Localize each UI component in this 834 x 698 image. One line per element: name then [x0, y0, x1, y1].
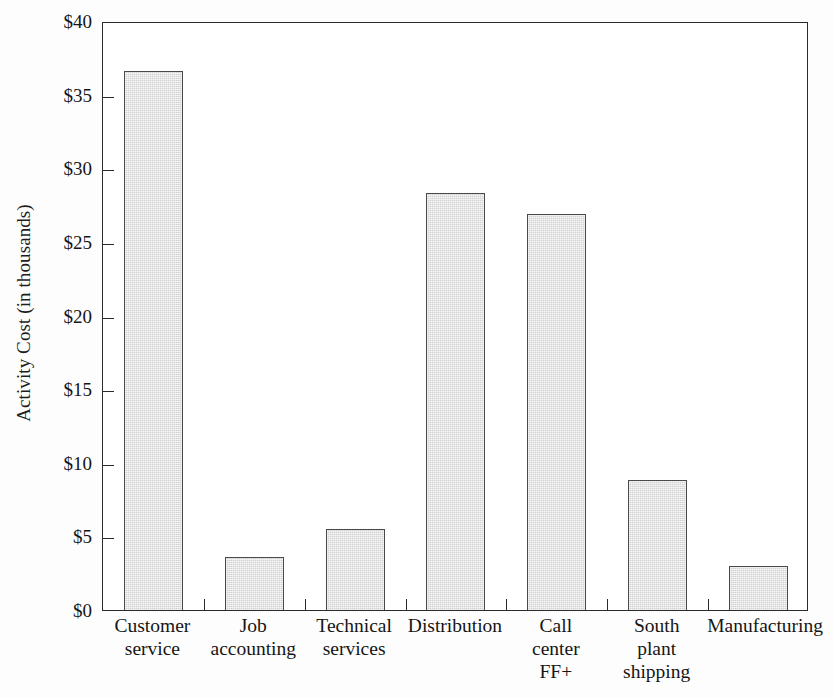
y-axis-tick-label: $25 [64, 232, 93, 254]
plot-area [102, 22, 808, 611]
y-axis-tick-mark [103, 538, 114, 539]
x-axis-tick-mark [708, 599, 709, 610]
y-axis-tick-label: $40 [64, 11, 93, 33]
y-axis-tick-label: $10 [64, 453, 93, 475]
x-axis-category-label-line: service [102, 637, 203, 660]
bar[interactable] [628, 480, 687, 610]
x-axis-category-label-line: South [606, 614, 707, 637]
bar[interactable] [225, 557, 284, 610]
x-axis-category-label-line: Distribution [405, 614, 506, 637]
x-axis-category-label-line: plant [606, 637, 707, 660]
bar-chart: Activity Cost (in thousands) $0$5$10$15$… [0, 0, 834, 698]
y-axis-tick-label: $30 [64, 158, 93, 180]
bar[interactable] [729, 566, 788, 610]
x-axis-category-label: Jobaccounting [203, 614, 304, 660]
x-axis-category-label-line: services [304, 637, 405, 660]
x-axis-tick-mark [204, 599, 205, 610]
x-axis-tick-mark [305, 599, 306, 610]
x-axis-category-label-line: center [505, 637, 606, 660]
x-axis-category-label: Technicalservices [304, 614, 405, 660]
x-axis-category-label: Customerservice [102, 614, 203, 660]
x-axis-category-label-line: Manufacturing [707, 614, 808, 637]
bar[interactable] [527, 214, 586, 610]
y-axis-tick-mark [103, 465, 114, 466]
x-axis-category-label-line: FF+ [505, 660, 606, 683]
x-axis-category-labels: CustomerserviceJobaccountingTechnicalser… [102, 614, 808, 698]
y-axis-title: Activity Cost (in thousands) [0, 0, 48, 625]
x-axis-category-label-line: Technical [304, 614, 405, 637]
y-axis-tick-mark [103, 97, 114, 98]
y-axis-tick-label: $0 [73, 600, 92, 622]
y-axis-tick-mark [103, 170, 114, 171]
y-axis-tick-label: $15 [64, 379, 93, 401]
x-axis-tick-mark [506, 599, 507, 610]
x-axis-tick-mark [607, 599, 608, 610]
bar[interactable] [124, 71, 183, 610]
y-axis-tick-label: $20 [64, 306, 93, 328]
x-axis-tick-mark [406, 599, 407, 610]
y-axis-tick-label: $35 [64, 85, 93, 107]
y-axis-title-text: Activity Cost (in thousands) [13, 204, 35, 422]
bar[interactable] [326, 529, 385, 610]
bar[interactable] [426, 193, 485, 610]
y-axis-tick-mark [103, 244, 114, 245]
x-axis-category-label-line: Call [505, 614, 606, 637]
x-axis-category-label: CallcenterFF+ [505, 614, 606, 683]
x-axis-category-label: Distribution [405, 614, 506, 637]
y-axis-tick-label: $5 [73, 526, 92, 548]
x-axis-category-label-line: Customer [102, 614, 203, 637]
x-axis-category-label-line: accounting [203, 637, 304, 660]
x-axis-category-label-line: shipping [606, 660, 707, 683]
x-axis-category-label-line: Job [203, 614, 304, 637]
y-axis-tick-labels: $0$5$10$15$20$25$30$35$40 [48, 0, 98, 625]
x-axis-category-label: Manufacturing [707, 614, 808, 637]
y-axis-tick-mark [103, 391, 114, 392]
y-axis-tick-mark [103, 318, 114, 319]
x-axis-category-label: Southplantshipping [606, 614, 707, 683]
